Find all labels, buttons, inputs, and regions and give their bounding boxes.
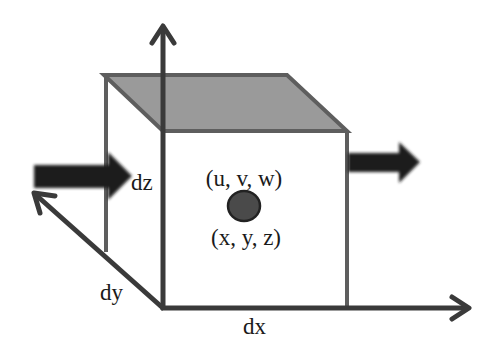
z-axis bbox=[152, 26, 174, 310]
dx-label: dx bbox=[243, 314, 267, 339]
center-point bbox=[228, 191, 260, 221]
velocity-label: (u, v, w) bbox=[206, 166, 282, 191]
position-label: (x, y, z) bbox=[211, 225, 281, 250]
y-axis bbox=[34, 193, 164, 309]
cube-top-face bbox=[104, 75, 347, 131]
control-volume-diagram: dz (u, v, w) (x, y, z) dy dx bbox=[0, 0, 503, 363]
dy-label: dy bbox=[100, 280, 124, 305]
dz-label: dz bbox=[131, 170, 153, 195]
x-axis bbox=[161, 297, 469, 319]
outflow-arrow bbox=[348, 142, 420, 183]
